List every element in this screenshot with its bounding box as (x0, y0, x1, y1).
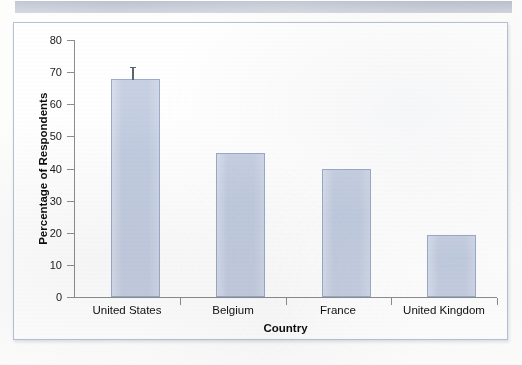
x-axis-title: Country (74, 323, 497, 335)
error-bar-united-states (132, 67, 134, 80)
chart-frame: 0 10 20 30 40 50 (13, 22, 508, 340)
x-category-label-united-states: United States (74, 305, 180, 317)
x-tick-boundary-1 (180, 298, 181, 305)
y-tick-0: 0 (14, 297, 74, 298)
x-category-label-france: France (285, 305, 391, 317)
x-tick-boundary-2 (286, 298, 287, 305)
bar-belgium (216, 153, 265, 297)
x-tick-boundary-3 (391, 298, 392, 305)
y-axis-line (74, 40, 75, 298)
bar-united-kingdom (427, 235, 476, 297)
top-banner-strip (15, 1, 512, 13)
plot-area: 0 10 20 30 40 50 (14, 23, 507, 339)
y-axis-title: Percentage of Respondents (38, 59, 50, 279)
error-bar-cap-united-states (130, 67, 136, 68)
y-tick-label-0: 0 (34, 292, 62, 303)
x-tick-boundary-4 (497, 298, 498, 305)
bar-france (322, 169, 371, 297)
y-tick-80: 80 (14, 40, 74, 41)
x-category-label-united-kingdom: United Kingdom (391, 305, 497, 317)
bar-united-states (111, 79, 160, 298)
x-category-label-belgium: Belgium (180, 305, 286, 317)
scanned-page: 0 10 20 30 40 50 (0, 0, 522, 365)
y-tick-label-80: 80 (34, 35, 62, 46)
